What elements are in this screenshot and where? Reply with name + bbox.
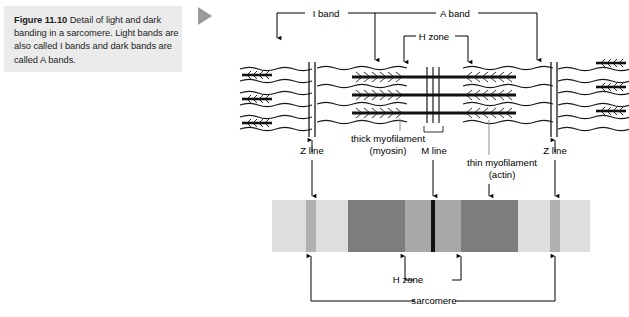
leader-line-group (312, 140, 555, 152)
actin-strand (240, 127, 312, 130)
band-z-line-stripe-right (550, 200, 560, 252)
actin-strand (317, 84, 407, 87)
actin-strand (558, 115, 629, 118)
actin-strand (240, 103, 312, 106)
actin-strand (463, 84, 553, 87)
actin-strand (317, 66, 407, 69)
actin-strand (240, 115, 312, 118)
actin-strand (558, 79, 629, 82)
actin-strand (463, 102, 553, 105)
actin-strand (317, 120, 407, 123)
thin-leader-group (400, 118, 489, 155)
figure-root: Figure 11.10 Detail of light and dark ba… (0, 0, 629, 317)
actin-strand (240, 67, 312, 70)
down-arrow-group (312, 160, 555, 196)
m-line-bracket (424, 126, 443, 132)
actin-strand (240, 91, 312, 94)
band-m-line-stripe (431, 200, 435, 252)
actin-strand (558, 103, 629, 106)
band-a-band-dark-right (461, 200, 518, 252)
band-h-zone-left (405, 200, 431, 252)
right-actin-group (558, 67, 629, 130)
actin-strand (463, 120, 553, 123)
z-line-right (551, 62, 557, 137)
band-h-zone-right (435, 200, 461, 252)
myofilament-drawing (240, 59, 629, 137)
banding-diagram (272, 200, 590, 252)
actin-strand (558, 91, 629, 94)
band-z-line-stripe-left (306, 200, 316, 252)
band-a-band-dark-left (348, 200, 405, 252)
z-line-left (309, 62, 315, 137)
actin-strand (558, 67, 629, 70)
actin-strand (558, 127, 629, 130)
actin-strand (240, 79, 312, 82)
top-bracket-group (277, 13, 537, 62)
thick-filament-group (352, 77, 516, 113)
actin-strand (463, 66, 553, 69)
bottom-bracket-group (311, 256, 555, 301)
actin-strand (317, 102, 407, 105)
figure-drawing (0, 0, 629, 317)
